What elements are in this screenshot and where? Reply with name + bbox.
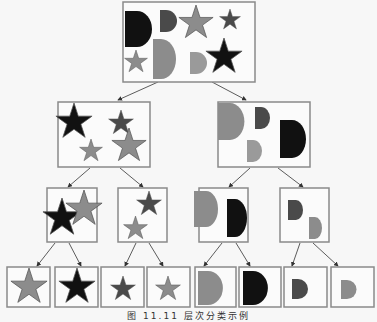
node-boxes [7,2,374,307]
figure-caption: 图 11.11 层次分类示例 [0,309,377,322]
node-small-stars [118,188,167,242]
node-small-d [280,188,329,242]
